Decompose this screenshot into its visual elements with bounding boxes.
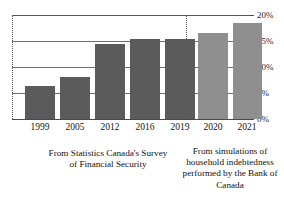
caption-simulation-source: From simulations of household indebtedne…: [176, 146, 284, 191]
bar-1999: [25, 86, 55, 119]
y-tick-label-20: 20%: [257, 11, 274, 20]
plot-area: [12, 15, 250, 119]
bar-2016: [130, 39, 160, 119]
dotted-separator-left: [12, 15, 13, 119]
y-tick-mark-20: [250, 15, 254, 16]
caption-survey-source: From Statistics Canada's Survey of Finan…: [44, 148, 172, 170]
x-label-1999: 1999: [20, 122, 60, 133]
x-axis-labels: 1999 2005 2012 2016 2019 2020 2021: [12, 122, 250, 136]
x-label-2016: 2016: [125, 122, 165, 133]
bar-2019: [165, 39, 195, 119]
chart-figure: 20% 15% 10% 5% 0% 1999 2005 2012 2016 20…: [0, 0, 284, 212]
x-label-2021: 2021: [227, 122, 267, 133]
dotted-separator-middle: [186, 15, 187, 119]
gridline-20: [12, 15, 250, 16]
x-label-2012: 2012: [90, 122, 130, 133]
bar-2005: [60, 77, 90, 119]
axis-baseline: [12, 119, 250, 120]
y-tick-mark-0: [250, 119, 254, 120]
bar-2021: [233, 23, 262, 119]
bar-2020: [198, 33, 228, 119]
x-label-2005: 2005: [55, 122, 95, 133]
bar-2012: [95, 44, 125, 119]
